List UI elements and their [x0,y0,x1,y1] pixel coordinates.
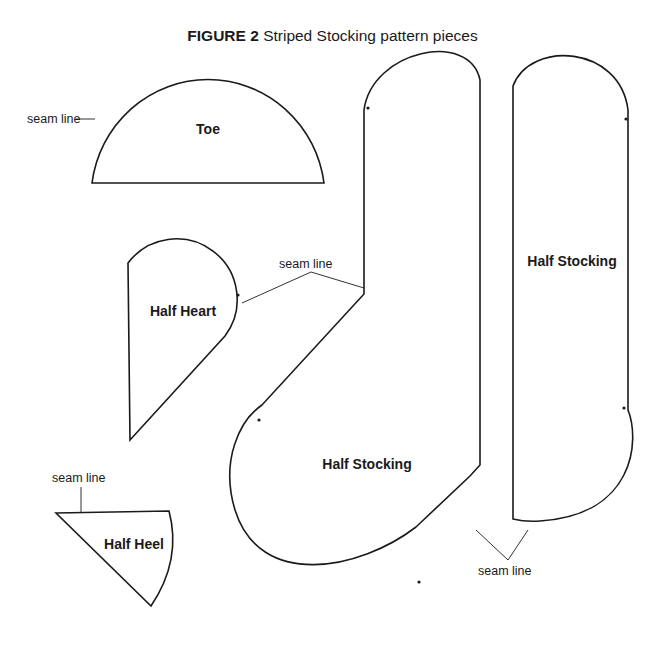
half-stocking-back-piece: Half Stocking [513,56,633,522]
half-stocking-front-piece: Half Stocking [230,52,480,584]
half-heel-piece: seam line Half Heel [52,471,173,606]
notch-dot [366,106,369,109]
notch-dot [624,117,627,120]
toe-label: Toe [196,121,220,137]
half-stocking-front-label: Half Stocking [322,456,411,472]
notch-dot [622,406,625,409]
pattern-diagram: Toe seam line Half Heart seam line seam … [0,0,665,655]
half-heart-label: Half Heart [150,303,216,319]
half-heart-piece: Half Heart [128,239,240,440]
toe-piece: Toe seam line [27,80,324,183]
half-heel-label: Half Heel [104,536,164,552]
notch-dot [257,418,260,421]
heart-stocking-seam-label: seam line [279,257,333,271]
toe-seam-label: seam line [27,112,81,126]
stocking-seam-leader [476,530,528,560]
heel-seam-label: seam line [52,471,106,485]
half-stocking-back-label: Half Stocking [527,253,616,269]
notch-dot [236,293,239,296]
stocking-seam-label: seam line [478,564,532,578]
heart-stocking-seam-leader [242,272,364,303]
notch-dot [417,580,420,583]
